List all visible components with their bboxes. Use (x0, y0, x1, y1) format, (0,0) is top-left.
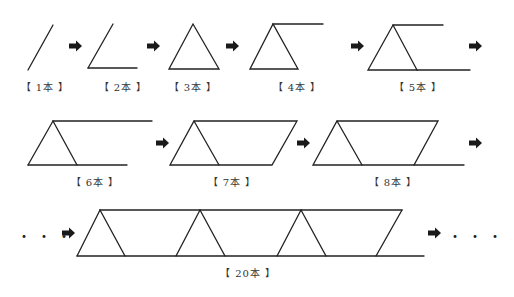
sequence-diagram (0, 0, 514, 297)
stage-2-figure (88, 24, 137, 68)
ellipsis-right: ・・・ (448, 225, 508, 245)
stage-1-figure (28, 25, 53, 70)
stage-8-figure (313, 121, 464, 165)
stage-6-figure (28, 121, 152, 165)
stage-label: 【 5本 】 (394, 79, 443, 94)
stage-3-figure (169, 24, 219, 69)
stage-label: 【 20本 】 (220, 265, 276, 280)
stage-label: 【 6本 】 (71, 174, 120, 189)
stage-5-figure (368, 25, 470, 70)
ellipsis-left: ・・・ (17, 225, 77, 245)
stage-20-figure (77, 210, 424, 256)
stage-label: 【 8本 】 (369, 174, 418, 189)
stage-label: 【 7本 】 (208, 174, 257, 189)
stage-label: 【 2本 】 (99, 79, 148, 94)
stage-4-figure (250, 24, 323, 69)
stage-label: 【 4本 】 (273, 79, 322, 94)
stage-label: 【 1本 】 (21, 79, 70, 94)
stage-label: 【 3本 】 (169, 79, 218, 94)
stage-7-figure (170, 121, 297, 165)
